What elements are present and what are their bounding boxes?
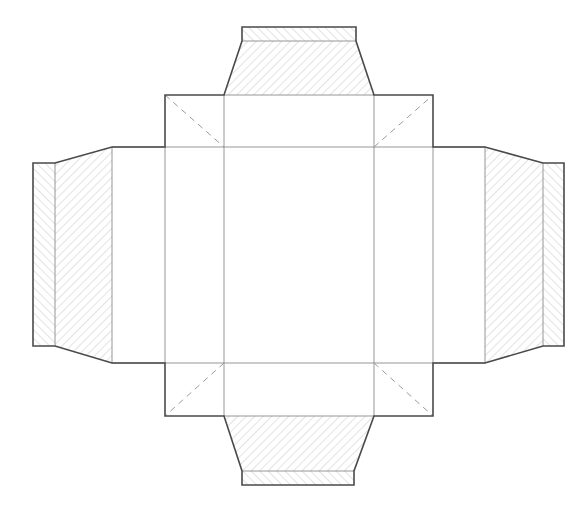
tuck-flap-top-trapezoid [224,41,374,95]
tuck-flap-bottom [224,416,374,485]
box-net-diagram [0,0,587,509]
tuck-flap-right [485,147,564,363]
tuck-flap-left-strip [33,163,55,346]
corner-gusset-folds [165,95,433,416]
fold-lines [55,41,543,471]
tuck-flap-bottom-strip [242,471,354,485]
tuck-flap-left [33,147,112,363]
gusset-fold-top-left [165,95,224,147]
tuck-flap-top [224,27,374,95]
tuck-flap-right-strip [543,163,564,346]
tuck-flap-right-trapezoid [485,147,543,363]
gusset-fold-bottom-right [374,363,433,416]
base-panel [224,147,374,363]
tuck-flap-top-strip [242,27,356,41]
tuck-flap-left-trapezoid [55,147,112,363]
gusset-fold-top-right [374,95,433,147]
tuck-flap-bottom-trapezoid [224,416,374,471]
gusset-fold-bottom-left [165,363,224,416]
